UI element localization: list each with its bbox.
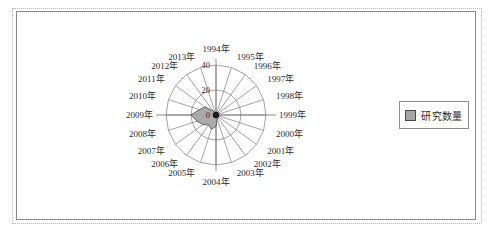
legend-swatch-icon: [405, 110, 416, 121]
radial-tick-0: 0: [206, 110, 210, 120]
grid-spoke: [216, 75, 245, 115]
grid-spoke: [216, 115, 264, 130]
grid-spoke: [216, 100, 264, 115]
category-label-2004年: 2004年: [203, 176, 230, 187]
center-marker: [213, 112, 219, 118]
grid-spoke: [216, 67, 231, 115]
grid-spoke: [216, 115, 231, 163]
category-label-2009年: 2009年: [126, 109, 153, 120]
category-label-1998年: 1998年: [276, 90, 303, 101]
category-label-2011年: 2011年: [138, 73, 165, 84]
legend: 研究数量: [399, 101, 469, 129]
category-label-1994年: 1994年: [203, 43, 230, 54]
category-label-2006年: 2006年: [151, 158, 178, 169]
category-label-2001年: 2001年: [267, 145, 294, 156]
category-label-1997年: 1997年: [267, 73, 294, 84]
category-label-2008年: 2008年: [129, 128, 156, 139]
category-label-2000年: 2000年: [276, 128, 303, 139]
legend-label: 研究数量: [421, 108, 462, 123]
category-label-1999年: 1999年: [279, 109, 306, 120]
category-label-2010年: 2010年: [129, 90, 156, 101]
category-label-1996年: 1996年: [254, 60, 281, 71]
category-label-2007年: 2007年: [138, 145, 165, 156]
grid-spoke: [216, 115, 245, 155]
polar-chart-area: 02040 1994年1995年1996年1997年1998年1999年2000…: [16, 11, 416, 220]
polar-chart-svg: 02040 1994年1995年1996年1997年1998年1999年2000…: [16, 11, 416, 220]
figure-root: 02040 1994年1995年1996年1997年1998年1999年2000…: [0, 0, 494, 233]
radial-tick-40: 40: [202, 60, 211, 70]
category-label-2013年: 2013年: [168, 51, 195, 62]
grid-spoke: [216, 115, 256, 144]
data-series-polygon: [191, 107, 218, 129]
series-area-研究数量: [191, 107, 218, 129]
category-label-2003年: 2003年: [237, 167, 264, 178]
grid-spoke: [216, 86, 256, 115]
radial-tick-20: 20: [202, 85, 211, 95]
